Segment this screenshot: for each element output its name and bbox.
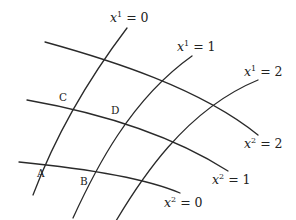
label-x2-2: x2 = 2 — [244, 136, 283, 151]
point-label-a: A — [36, 167, 45, 179]
curve-x2-2 — [45, 42, 258, 135]
coordinate-grid-diagram: x1 = 0 x1 = 1 x1 = 2 x2 = 2 x2 = 1 x2 = … — [0, 0, 296, 220]
diagram-svg: x1 = 0 x1 = 1 x1 = 2 x2 = 2 x2 = 1 x2 = … — [0, 0, 296, 220]
label-x1-0: x1 = 0 — [110, 10, 149, 25]
curve-x2-1 — [27, 100, 228, 171]
label-x1-2: x1 = 2 — [244, 64, 283, 79]
label-x2-1: x2 = 1 — [212, 172, 251, 187]
point-label-d: D — [111, 104, 119, 116]
point-label-b: B — [80, 175, 88, 187]
label-x2-0: x2 = 0 — [164, 195, 203, 210]
label-x1-1: x1 = 1 — [177, 39, 216, 54]
point-label-c: C — [59, 91, 67, 103]
